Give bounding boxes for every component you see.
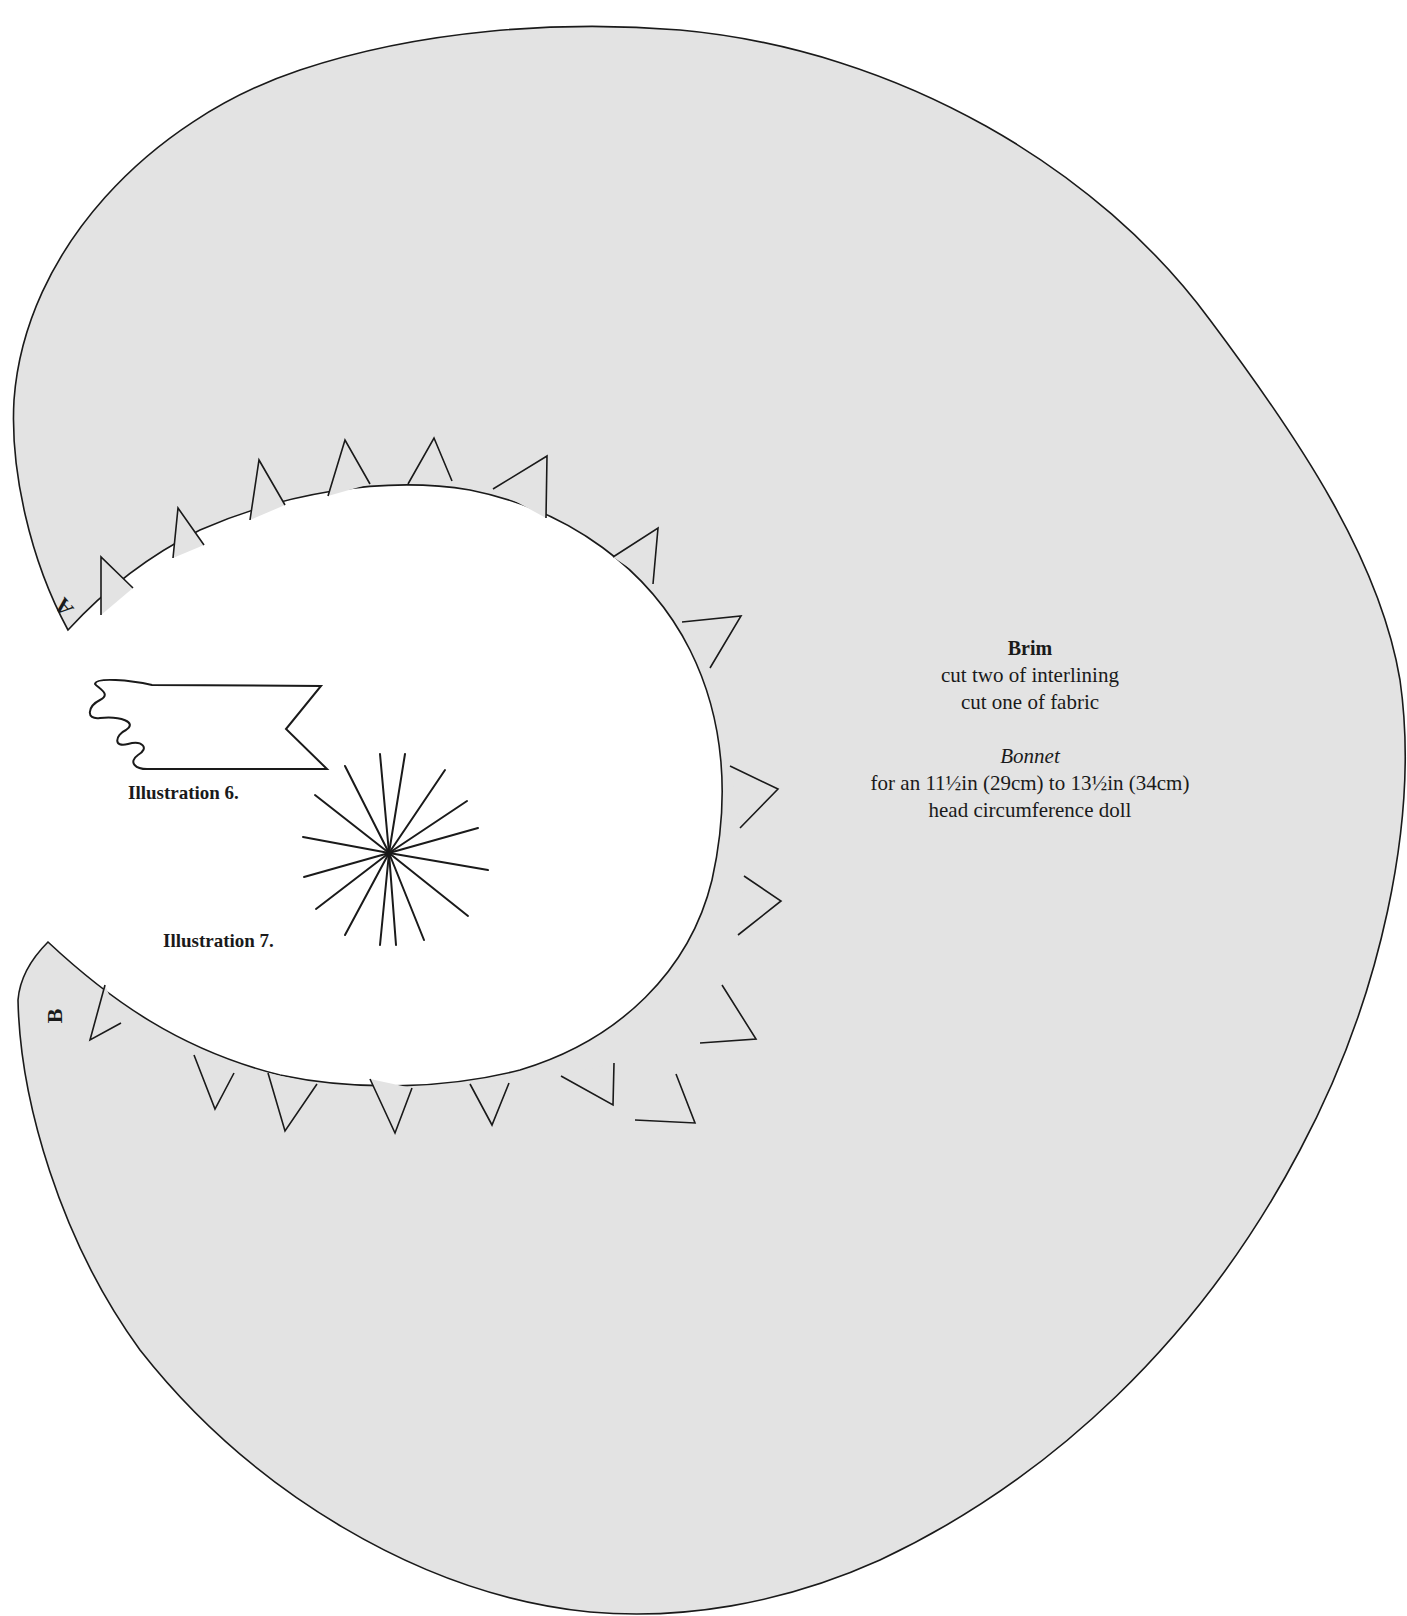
- size-line: for an 11½in (29cm) to 13½in (34cm): [820, 770, 1240, 797]
- spacer: [820, 716, 1240, 743]
- garment-title: Bonnet: [820, 743, 1240, 770]
- illustration-6-caption: Illustration 6.: [128, 782, 239, 804]
- illustration-6-drawing: [90, 680, 327, 769]
- illustration-7-drawing: [303, 754, 488, 945]
- illustration-7-caption: Illustration 7.: [163, 930, 274, 952]
- marker-b: B: [42, 1009, 68, 1024]
- size-line-2: head circumference doll: [820, 797, 1240, 824]
- instruction-line: cut one of fabric: [820, 689, 1240, 716]
- piece-title: Brim: [820, 635, 1240, 662]
- instruction-line: cut two of interlining: [820, 662, 1240, 689]
- pattern-instructions: Brim cut two of interlining cut one of f…: [820, 635, 1240, 824]
